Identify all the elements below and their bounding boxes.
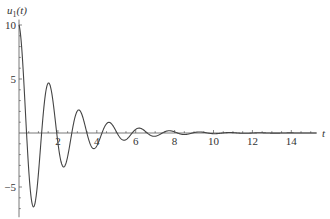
axes [19, 20, 317, 218]
x-tick-label: 12 [247, 135, 258, 147]
tick-labels: 2468101214105−5 [4, 19, 297, 193]
y-tick-label: 10 [5, 19, 17, 31]
y-tick-label: 5 [11, 73, 17, 85]
y-tick-label: −5 [4, 181, 16, 193]
tick-marks [19, 25, 311, 209]
x-tick-label: 8 [172, 135, 178, 147]
damped-oscillation-plot: 2468101214105−5 t u1(t) [0, 0, 330, 219]
y-label-arg: (t) [17, 4, 28, 17]
y-axis-label: u1(t) [7, 4, 27, 19]
series-u1-curve [19, 25, 317, 207]
x-axis-label: t [322, 127, 326, 139]
x-tick-label: 14 [286, 135, 298, 147]
x-tick-label: 6 [133, 135, 139, 147]
x-tick-label: 10 [208, 135, 220, 147]
